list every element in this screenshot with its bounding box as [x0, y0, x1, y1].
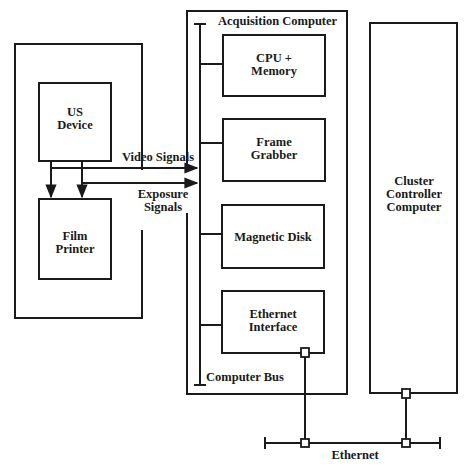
magnetic-disk-node[interactable]: Magnetic Disk — [222, 205, 324, 268]
us-device-label-1: US — [67, 105, 83, 119]
ethernet-label: Ethernet — [331, 448, 379, 462]
frame-grabber-node[interactable]: Frame Grabber — [223, 119, 325, 181]
ethernet-segment: Ethernet — [265, 437, 440, 462]
ultrasound-station-enclosure — [15, 44, 142, 318]
system-diagram: US Device Film Printer Video Signals Exp… — [0, 0, 468, 471]
cluster-controller-label-3: Computer — [387, 200, 442, 214]
computer-bus-label: Computer Bus — [206, 370, 284, 384]
ethernet-links — [301, 348, 410, 443]
film-printer-label-2: Printer — [56, 242, 95, 256]
film-printer-node[interactable]: Film Printer — [39, 199, 111, 279]
exposure-signals-label-2: Signals — [144, 200, 182, 214]
cluster-controller-node[interactable]: Cluster Controller Computer — [370, 23, 457, 393]
magnetic-disk-label: Magnetic Disk — [234, 230, 311, 244]
ethernet-tap-icon — [402, 439, 410, 447]
exposure-signals-label-1: Exposure — [138, 187, 189, 201]
ethernet-interface-label-2: Interface — [249, 320, 298, 334]
frame-grabber-label-1: Frame — [256, 135, 292, 149]
cluster-port-icon — [402, 389, 410, 398]
film-printer-label-1: Film — [63, 229, 89, 243]
cpu-memory-label-1: CPU + — [256, 51, 292, 65]
ethernet-tap-icon — [301, 439, 309, 447]
cluster-controller-label-1: Cluster — [394, 174, 434, 188]
video-signals-label: Video Signals — [122, 150, 194, 164]
us-device-label-2: Device — [57, 118, 93, 132]
frame-grabber-label-2: Grabber — [251, 148, 298, 162]
cluster-controller-label-2: Controller — [386, 187, 442, 201]
ethernet-interface-node[interactable]: Ethernet Interface — [222, 291, 324, 353]
us-to-film-arrows — [51, 161, 82, 197]
acquisition-computer-label: Acquisition Computer — [218, 14, 338, 28]
ethernet-interface-port-icon — [301, 348, 309, 357]
us-device-node[interactable]: US Device — [39, 83, 111, 161]
ethernet-interface-label-1: Ethernet — [249, 307, 297, 321]
video-signals-edge: Video Signals — [51, 150, 197, 168]
cpu-memory-node[interactable]: CPU + Memory — [223, 35, 325, 96]
cpu-memory-label-2: Memory — [251, 64, 298, 78]
